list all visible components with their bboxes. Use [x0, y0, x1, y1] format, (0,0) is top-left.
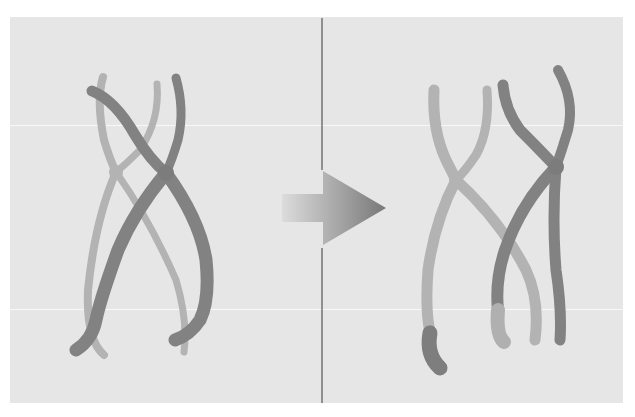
arrow-icon	[282, 171, 386, 245]
dark-chromosome	[76, 78, 207, 350]
chromosome-pair-after	[427, 70, 570, 368]
chromosome-pair-before	[76, 77, 207, 355]
crossover-diagram	[0, 0, 635, 417]
